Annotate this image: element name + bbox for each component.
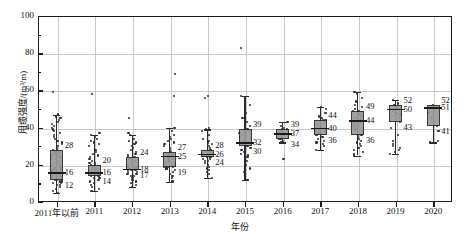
whisker-cap [392, 100, 399, 101]
label-q3: 28 [65, 140, 74, 150]
whisker-cap [129, 187, 136, 188]
y-tick-label: 40 [2, 122, 34, 132]
whisker-cap [242, 96, 249, 97]
scatter-point [325, 108, 327, 110]
whisker-cap [317, 150, 324, 151]
label-q1: 41 [441, 126, 450, 136]
scatter-point [204, 97, 206, 99]
scatter-point [126, 173, 128, 175]
scatter-point [240, 153, 242, 155]
gridline-vertical [321, 17, 322, 201]
whisker-cap [166, 128, 173, 129]
y-tick-minor [38, 35, 41, 36]
scatter-point [321, 136, 323, 138]
scatter-point [246, 121, 248, 123]
label-median: 40 [328, 123, 337, 133]
gridline-vertical [284, 17, 285, 201]
scatter-point [397, 102, 399, 104]
whisker-cap [430, 142, 437, 143]
scatter-point [174, 73, 176, 75]
whisker-cap [242, 180, 249, 181]
scatter-point [128, 140, 130, 142]
scatter-point [354, 108, 356, 110]
y-tick-label: 20 [2, 159, 34, 169]
whisker-cap [204, 129, 211, 130]
scatter-point [392, 140, 394, 142]
box-2013 [163, 152, 176, 167]
whisker-cap [354, 156, 361, 157]
box-2018 [351, 111, 364, 135]
whisker-cap [53, 115, 60, 116]
scatter-point [90, 140, 92, 142]
label-q1: 36 [366, 135, 375, 145]
gridline-vertical [246, 17, 247, 201]
scatter-point [133, 138, 135, 140]
y-tick-major [38, 90, 43, 91]
scatter-point [173, 141, 175, 143]
y-tick-minor [38, 109, 41, 110]
label-q1: 24 [215, 157, 224, 167]
gridline-vertical [171, 17, 172, 201]
gridline-vertical [133, 17, 134, 201]
label-q3: 44 [328, 110, 337, 120]
whisker-cap [392, 154, 399, 155]
label-q1: 34 [291, 139, 300, 149]
y-tick-minor [38, 146, 41, 147]
whisker-cap [279, 122, 286, 123]
median-line [387, 109, 405, 110]
median-line [161, 156, 179, 157]
label-q3: 49 [366, 101, 375, 111]
scatter-point [98, 132, 100, 134]
scatter-point [165, 167, 167, 169]
scatter-point [97, 179, 99, 181]
label-q3: 24 [140, 147, 149, 157]
scatter-point [134, 153, 136, 155]
median-line [85, 172, 103, 173]
whisker-cap [53, 193, 60, 194]
whisker-cap [354, 92, 361, 93]
label-q1: 14 [102, 176, 111, 186]
label-q1: 30 [253, 146, 262, 156]
scatter-point [240, 47, 242, 49]
median-line [48, 172, 66, 173]
scatter-point [204, 162, 206, 164]
median-line [349, 120, 367, 121]
median-line [424, 107, 442, 108]
gridline-horizontal [39, 91, 451, 92]
y-tick-label: 100 [2, 10, 34, 20]
scatter-point [207, 95, 209, 97]
gridline-horizontal [39, 54, 451, 55]
y-tick-major [38, 165, 43, 166]
scatter-point [208, 127, 210, 129]
scatter-point [360, 140, 362, 142]
median-line [311, 128, 329, 129]
whisker-cap [279, 142, 286, 143]
y-tick-major [38, 202, 43, 203]
label-q1: 17 [140, 170, 149, 180]
y-tick-label: 60 [2, 84, 34, 94]
scatter-point [89, 180, 91, 182]
label-q1: 12 [65, 180, 74, 190]
whisker-cap [204, 178, 211, 179]
label-q1: 19 [178, 167, 187, 177]
median-line [274, 133, 292, 134]
label-median: 44 [366, 115, 375, 125]
scatter-point [97, 154, 99, 156]
median-line [198, 154, 216, 155]
y-tick-major [38, 128, 43, 129]
y-tick-minor [38, 72, 41, 73]
scatter-point [249, 167, 251, 169]
whisker-cap [129, 135, 136, 136]
label-median: 16 [65, 167, 74, 177]
y-tick-major [38, 53, 43, 54]
x-axis-title: 年份 [231, 220, 249, 233]
x-tick-label: 2020 [406, 206, 460, 216]
whisker-cap [166, 182, 173, 183]
scatter-point [202, 138, 204, 140]
scatter-point [315, 141, 317, 143]
whisker-line [94, 135, 95, 191]
label-median: 25 [178, 151, 187, 161]
label-q1: 43 [404, 122, 413, 132]
scatter-point [324, 112, 326, 114]
y-tick-label: 0 [2, 196, 34, 206]
